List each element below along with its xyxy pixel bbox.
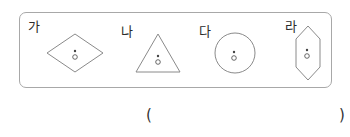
hexagon-shape xyxy=(296,26,320,80)
rhombus-shape xyxy=(47,34,103,72)
triangle-shape xyxy=(136,34,180,72)
answer-close-paren: ) xyxy=(339,106,345,124)
answer-blank[interactable] xyxy=(156,104,336,126)
circle-shape xyxy=(215,33,255,73)
answer-open-paren: ( xyxy=(146,106,152,124)
